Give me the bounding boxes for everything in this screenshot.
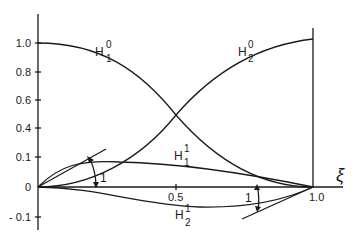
y-tick-label: 0.4 <box>16 122 31 134</box>
svg-text:1: 1 <box>106 53 112 64</box>
slope-annotation: 1 <box>100 171 107 185</box>
svg-text:0: 0 <box>248 39 254 50</box>
tangent-line-end <box>242 187 313 219</box>
slope-annotation: 1 <box>245 191 252 205</box>
x-axis-label: ξ <box>336 165 345 185</box>
x-tick-label: 0.5 <box>168 191 183 203</box>
svg-text:2: 2 <box>248 53 254 64</box>
y-tick-label: 0.8 <box>16 66 31 78</box>
svg-text:2: 2 <box>185 217 191 228</box>
y-tick-label: 0 <box>25 181 31 193</box>
svg-text:0: 0 <box>106 39 112 50</box>
label-h2-0: H <box>238 45 247 59</box>
svg-text:1: 1 <box>184 143 190 154</box>
curve-h1-1 <box>38 162 313 187</box>
svg-text:1: 1 <box>185 203 191 214</box>
hermite-basis-chart: 1.0 0.8 0.6 0.4 0.1 0 - 0.1 0.5 1.0 ξ H … <box>0 0 362 241</box>
y-tick-label: 1.0 <box>16 37 31 49</box>
x-tick-label: 1.0 <box>309 191 324 203</box>
y-tick-label: 0.1 <box>16 151 31 163</box>
y-tick-label: 0.6 <box>16 94 31 106</box>
label-h1-0: H <box>95 45 104 59</box>
svg-text:1: 1 <box>184 157 190 168</box>
label-h2-1: H <box>175 208 184 222</box>
y-tick-label: - 0.1 <box>9 211 31 223</box>
label-h1-1: H <box>174 149 183 163</box>
